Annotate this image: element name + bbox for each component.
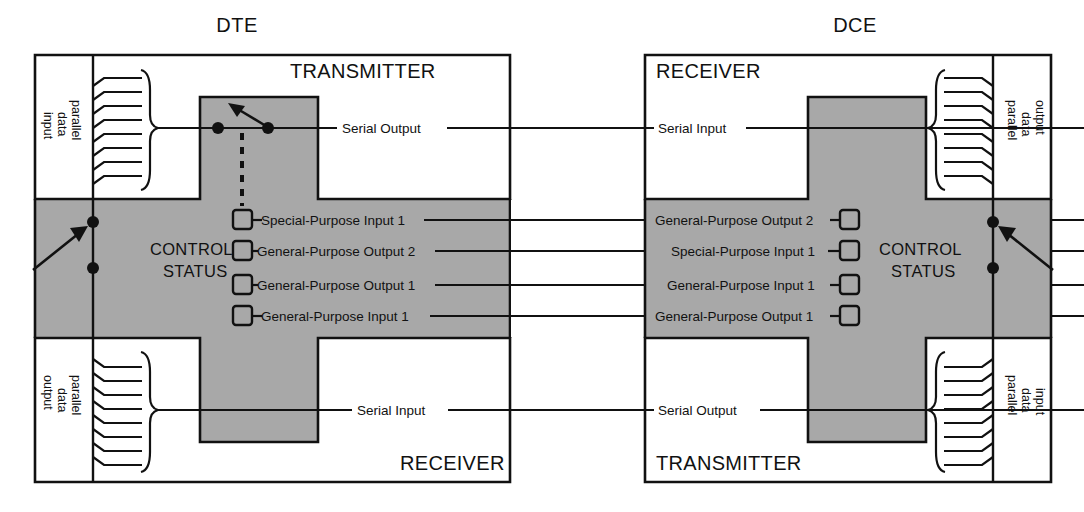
dce-bottom-bus-brace xyxy=(928,352,945,472)
dte-top-bus-label-line2: data xyxy=(55,112,69,136)
dce-control-label: CONTROL xyxy=(879,240,962,258)
dce-top-bus-label-line3: output xyxy=(1033,100,1047,135)
dte-signal-label-4: General-Purpose Input 1 xyxy=(261,309,409,324)
dce-bottom-bus-label-line1: parallel xyxy=(1005,375,1019,415)
dce-connector-square-1[interactable] xyxy=(840,210,859,229)
dte-serial-input-label: Serial Input xyxy=(357,403,426,418)
dte-control-tap-upper xyxy=(87,216,99,228)
dte-signal-label-3: General-Purpose Output 1 xyxy=(257,278,415,293)
title-dte: DTE xyxy=(216,14,258,36)
dte-receiver-control-tab xyxy=(200,338,318,442)
dte-bottom-bus-label-line1: parallel xyxy=(69,375,83,415)
dte-transmitter-label: TRANSMITTER xyxy=(290,60,436,82)
dte-top-parallel-bus-fan xyxy=(93,78,142,184)
dce-signal-label-1: General-Purpose Output 2 xyxy=(655,213,813,228)
dte-top-bus-brace xyxy=(141,70,158,190)
dce-connector-square-3[interactable] xyxy=(840,275,859,294)
dte-receiver-label: RECEIVER xyxy=(400,452,505,474)
dce-control-tap-lower xyxy=(987,262,999,274)
dte-bottom-parallel-bus-fan xyxy=(93,359,142,465)
dte-status-label: STATUS xyxy=(163,262,227,280)
dce-top-bus-label-line1: parallel xyxy=(1005,100,1019,140)
dce-top-bus-label-line2: data xyxy=(1019,112,1033,136)
dte-connector-square-2[interactable] xyxy=(233,241,252,260)
dte-connector-square-4[interactable] xyxy=(233,306,252,325)
dce-transmitter-control-tab xyxy=(808,338,926,442)
dce-connector-square-2[interactable] xyxy=(840,241,859,260)
dce-status-label: STATUS xyxy=(891,262,955,280)
dce-serial-output-label: Serial Output xyxy=(658,403,737,418)
dce-transmitter-label: TRANSMITTER xyxy=(656,452,802,474)
dte-switch-contact-left xyxy=(212,122,224,134)
dce-signal-label-4: General-Purpose Output 1 xyxy=(655,309,813,324)
diagram-canvas: DTE DCE xyxy=(0,0,1084,512)
dce-connector-square-4[interactable] xyxy=(840,306,859,325)
dte-serial-output-label: Serial Output xyxy=(342,121,421,136)
dte-control-tap-lower xyxy=(87,262,99,274)
dte-top-bus-label-line1: parallel xyxy=(69,100,83,140)
dce-signal-label-2: Special-Purpose Input 1 xyxy=(671,244,815,259)
dce-top-parallel-bus-fan xyxy=(944,78,993,184)
dce-signal-label-3: General-Purpose Input 1 xyxy=(667,278,815,293)
dte-signal-label-1: Special-Purpose Input 1 xyxy=(261,213,405,228)
dte-signal-label-2: General-Purpose Output 2 xyxy=(257,244,415,259)
dce-bottom-parallel-bus-fan xyxy=(944,359,993,465)
dte-connector-square-3[interactable] xyxy=(233,275,252,294)
dce-serial-input-label: Serial Input xyxy=(658,121,727,136)
dte-dce-interface-diagram: DTE DCE xyxy=(0,0,1084,512)
dce-control-tap-upper xyxy=(987,216,999,228)
dte-bottom-bus-label-line3: output xyxy=(41,375,55,410)
dce-receiver-control-tab xyxy=(808,97,926,199)
dte-bottom-bus-label-line2: data xyxy=(55,388,69,412)
dte-transmitter-control-tab xyxy=(200,97,318,199)
dce-bottom-bus-label-line3: input xyxy=(1033,388,1047,416)
dce-top-bus-brace xyxy=(928,70,945,190)
dte-top-bus-label-line3: input xyxy=(41,112,55,140)
dce-bottom-bus-label-line2: data xyxy=(1019,388,1033,412)
dte-bottom-bus-brace xyxy=(141,352,158,472)
dte-control-label: CONTROL xyxy=(150,240,233,258)
title-dce: DCE xyxy=(833,14,877,36)
dce-receiver-label: RECEIVER xyxy=(656,60,761,82)
dce-unit: RECEIVER TRANSMITTER CONTROL STATUS para… xyxy=(645,55,1053,482)
dte-connector-square-1[interactable] xyxy=(233,210,252,229)
